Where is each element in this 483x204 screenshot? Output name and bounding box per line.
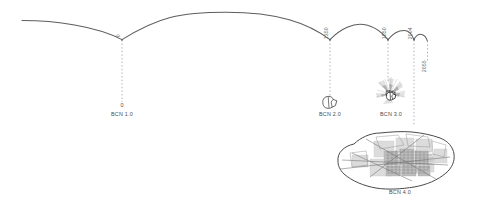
node-marker-year-0 — [121, 39, 123, 41]
glyph-bcn3-cerda-starburst — [376, 77, 405, 104]
arc-segment-bcn1 — [122, 12, 330, 39]
node-marker-group — [121, 39, 415, 41]
node-marker-year-1850 — [387, 39, 389, 41]
arc-segment-prehistory — [22, 21, 122, 40]
era-caption-bcn3: BCN 3.0 — [369, 112, 413, 117]
diagram-canvas: 0 1350 1850 2004 2055 0 BCN 1.0 BCN 2.0 … — [0, 0, 483, 204]
era-caption-bcn4: BCN 4.0 — [378, 190, 422, 195]
arc-segment-bcn2 — [330, 24, 388, 39]
node-marker-year-2004 — [413, 39, 415, 41]
year-label-1850: 1850 — [382, 27, 387, 39]
year-label-1350: 1350 — [324, 27, 329, 39]
arc-segment-bcn4 — [414, 34, 428, 41]
year-label-2055: 2055 — [422, 60, 427, 72]
node-marker-year-1350 — [329, 39, 331, 41]
year-label-2004: 2004 — [408, 27, 413, 39]
glyph-bcn2-medieval-city — [323, 96, 337, 108]
origin-zero-label: 0 — [112, 103, 132, 108]
arc-chain — [22, 12, 428, 41]
year-label-0: 0 — [116, 34, 121, 37]
era-caption-bcn2: BCN 2.0 — [308, 112, 352, 117]
glyph-bcn4-metropolitan-map — [338, 132, 454, 190]
era-caption-bcn1: BCN 1.0 — [100, 112, 144, 117]
